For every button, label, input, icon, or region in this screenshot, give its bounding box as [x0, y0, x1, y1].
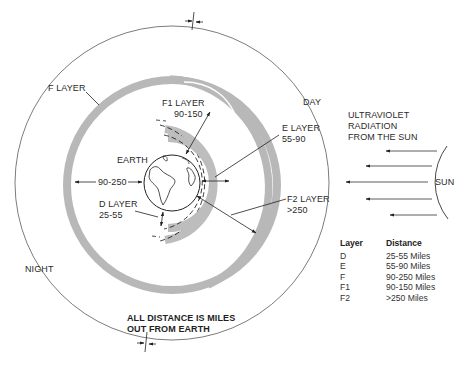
day-label: DAY: [303, 97, 321, 108]
uv-label-line3: FROM THE SUN: [348, 132, 418, 143]
legend-row: F1 90-150 Miles: [340, 282, 435, 293]
sun-label: SUN: [435, 177, 454, 188]
night-label: NIGHT: [25, 264, 54, 275]
ionosphere-diagram: [0, 0, 466, 367]
note-line2: OUT FROM EARTH: [127, 324, 210, 335]
legend-layer: F2: [340, 293, 386, 304]
note-line1: ALL DISTANCE IS MILES: [127, 313, 235, 324]
d-range-arrow: [161, 212, 163, 226]
d-layer-leader: [135, 211, 158, 217]
legend-layer: F: [340, 272, 386, 283]
f-range-label: 90-250: [98, 177, 127, 188]
legend-header-layer: Layer: [340, 238, 386, 249]
legend-row: F2 >250 Miles: [340, 293, 435, 304]
legend-header-distance: Distance: [386, 238, 422, 249]
f-layer-label: F LAYER: [48, 83, 86, 94]
f2-layer-label: F2 LAYER: [287, 194, 330, 205]
layer-distance-legend: Layer Distance D 25-55 Miles E 55-90 Mil…: [340, 238, 435, 304]
legend-row: E 55-90 Miles: [340, 261, 435, 272]
f1-range-label: 90-150: [174, 109, 203, 120]
e-layer-dash-lead: [156, 120, 166, 121]
earth-icon: [144, 155, 200, 211]
legend-layer: F1: [340, 282, 386, 293]
legend-layer: E: [340, 261, 386, 272]
d-range-label: 25-55: [99, 210, 123, 221]
bottom-tick-marker: [137, 332, 156, 352]
f2-range-label: >250: [287, 205, 308, 216]
uv-ray-arrows: [346, 151, 437, 215]
e-layer-label: E LAYER: [282, 123, 320, 134]
e-layer-dash-tail: [152, 236, 160, 237]
legend-distance: 25-55 Miles: [386, 251, 430, 262]
legend-layer: D: [340, 251, 386, 262]
f-layer-leader: [86, 92, 99, 105]
f1-layer-label: F1 LAYER: [162, 98, 205, 109]
d-layer-label: D LAYER: [99, 199, 138, 210]
uv-label-line1: ULTRAVIOLET: [348, 110, 409, 121]
legend-distance: 90-150 Miles: [386, 282, 435, 293]
legend-distance: 90-250 Miles: [386, 272, 435, 283]
legend-row: F 90-250 Miles: [340, 272, 435, 283]
legend-distance: 55-90 Miles: [386, 261, 430, 272]
legend-distance: >250 Miles: [386, 293, 428, 304]
legend-row: D 25-55 Miles: [340, 251, 435, 262]
e-range-label: 55-90: [282, 134, 306, 145]
legend-header: Layer Distance: [340, 238, 435, 249]
earth-label: EARTH: [117, 155, 148, 166]
uv-label-line2: RADIATION: [348, 121, 397, 132]
